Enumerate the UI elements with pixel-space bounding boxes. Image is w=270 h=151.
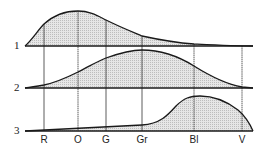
color-band-curves-diagram xyxy=(0,0,270,151)
band-label-gr: Gr xyxy=(136,135,147,145)
row-label-1: 1 xyxy=(14,40,20,51)
band-label-bl: Bl xyxy=(190,135,199,145)
band-label-o: O xyxy=(74,135,82,145)
row-label-2: 2 xyxy=(14,82,20,93)
curve-1-fill xyxy=(25,11,253,46)
curve-2-fill xyxy=(25,50,253,88)
band-label-v: V xyxy=(239,135,246,145)
band-label-g: G xyxy=(102,135,110,145)
row-label-3: 3 xyxy=(14,125,20,136)
band-label-r: R xyxy=(40,135,47,145)
